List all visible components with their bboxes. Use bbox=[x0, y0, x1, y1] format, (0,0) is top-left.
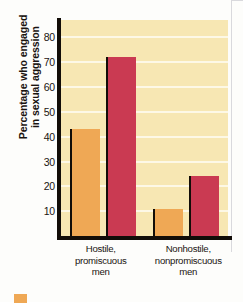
gridline-80 bbox=[61, 36, 228, 38]
x-category-label-0-line-1: promiscuous bbox=[57, 255, 145, 267]
y-tick-label-10: 10 bbox=[28, 206, 55, 217]
plot-area bbox=[61, 20, 228, 236]
x-category-label-1-line-1: nonpromiscuous bbox=[145, 255, 233, 267]
legend-swatch-orange bbox=[14, 294, 27, 303]
y-tick-label-60: 60 bbox=[28, 82, 55, 93]
gridline-70 bbox=[61, 61, 228, 63]
y-tick-label-50: 50 bbox=[28, 107, 55, 118]
y-tick-label-40: 40 bbox=[28, 131, 55, 142]
bar-orange-series-group-1 bbox=[153, 209, 183, 236]
legend bbox=[14, 294, 27, 303]
gridline-60 bbox=[61, 86, 228, 88]
gridline-50 bbox=[61, 111, 228, 113]
y-tick-label-20: 20 bbox=[28, 181, 55, 192]
bar-orange-series-group-0 bbox=[70, 129, 100, 236]
x-axis-category-labels: Hostile,promiscuousmenNonhostile,nonprom… bbox=[57, 243, 232, 291]
y-tick-label-30: 30 bbox=[28, 156, 55, 167]
x-category-label-0: Hostile,promiscuousmen bbox=[57, 243, 145, 291]
x-category-label-1-line-2: men bbox=[145, 266, 233, 278]
x-category-label-0-line-2: men bbox=[57, 266, 145, 278]
page-gutter-rule-top bbox=[231, 0, 243, 1]
bar-red-series-group-1 bbox=[189, 176, 219, 236]
y-axis-tick-labels: 1020304050607080 bbox=[28, 20, 55, 236]
x-category-label-0-line-0: Hostile, bbox=[57, 243, 145, 255]
page-gutter-rule bbox=[231, 0, 232, 252]
bar-red-series-group-0 bbox=[106, 57, 136, 236]
x-category-label-1-line-0: Nonhostile, bbox=[145, 243, 233, 255]
y-tick-label-80: 80 bbox=[28, 32, 55, 43]
y-tick-label-70: 70 bbox=[28, 57, 55, 68]
x-category-label-1: Nonhostile,nonpromiscuousmen bbox=[145, 243, 233, 291]
x-axis-line bbox=[57, 236, 232, 240]
